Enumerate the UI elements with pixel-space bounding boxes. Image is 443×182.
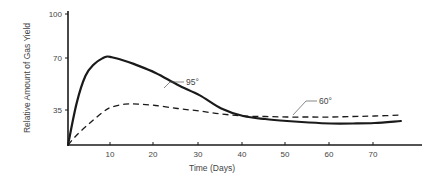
- axes: [67, 11, 422, 145]
- x-tick-label-60: 60: [325, 150, 334, 159]
- x-tick-label-20: 20: [149, 150, 158, 159]
- x-tick-label-40: 40: [238, 150, 247, 159]
- series-60-leader-line: [293, 101, 317, 115]
- series-60-annotation: 60°: [293, 96, 332, 115]
- x-tick-label-70: 70: [369, 150, 378, 159]
- x-tick-label-50: 50: [281, 150, 290, 159]
- x-tick-label-10: 10: [106, 150, 115, 159]
- series-95-label: 95°: [186, 77, 199, 87]
- y-ticks: 100 70 35: [49, 10, 68, 115]
- y-tick-label-35: 35: [53, 106, 62, 115]
- y-tick-label-100: 100: [49, 10, 63, 19]
- y-tick-label-70: 70: [53, 54, 62, 63]
- series-60-label: 60°: [319, 96, 332, 106]
- x-tick-label-30: 30: [194, 150, 203, 159]
- series-95-solid-line: [68, 56, 401, 145]
- y-axis-title: Relative Amount of Gas Yield: [22, 23, 32, 133]
- gas-yield-line-chart: 100 70 35 10 20 30 40 50 60 70 Time (Day…: [0, 0, 443, 182]
- x-axis-title: Time (Days): [189, 163, 235, 173]
